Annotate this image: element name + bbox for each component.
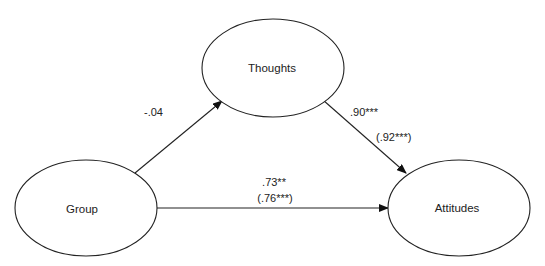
coefficient-group-to-attitudes: .73** [262, 176, 286, 189]
diagram-svg [0, 0, 545, 266]
node-thoughts-label: Thoughts [248, 61, 296, 75]
coefficient-group-to-thoughts: -.04 [144, 106, 163, 119]
coefficient-alt-thoughts-to-attitudes: (.92***) [376, 131, 411, 144]
coefficient-thoughts-to-attitudes: .90*** [350, 106, 378, 119]
node-attitudes-label: Attitudes [435, 201, 480, 215]
coefficient-alt-group-to-attitudes: (.76***) [257, 192, 292, 205]
node-group-label: Group [66, 202, 98, 216]
mediation-diagram: Thoughts Group Attitudes -.04 .90*** (.9… [0, 0, 545, 266]
